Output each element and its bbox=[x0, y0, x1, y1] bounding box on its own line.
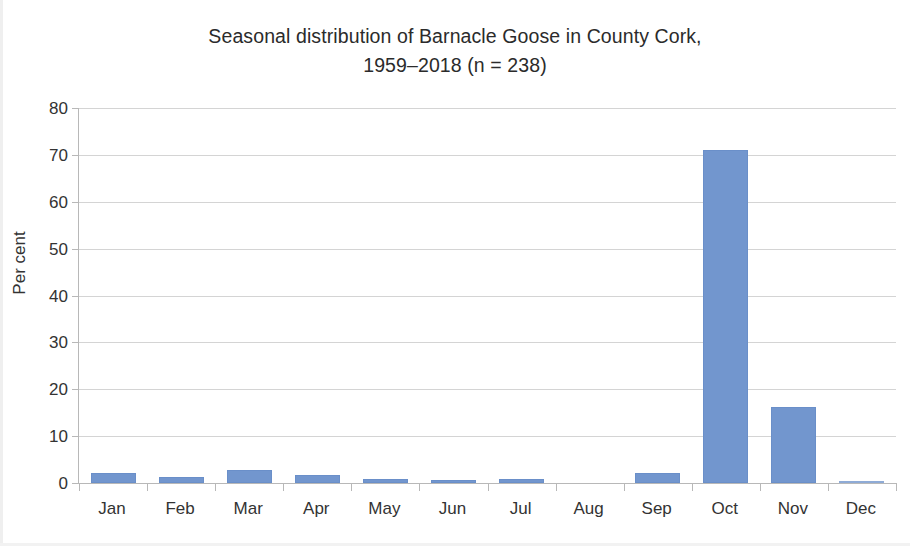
y-tick-mark-70 bbox=[72, 155, 79, 156]
x-axis-tick-labels: JanFebMarAprMayJunJulAugSepOctNovDec bbox=[78, 498, 895, 528]
x-tick-label-jul: Jul bbox=[487, 498, 555, 520]
x-tick-mark-2 bbox=[215, 483, 216, 491]
gridline-60 bbox=[79, 202, 896, 203]
x-tick-mark-5 bbox=[419, 483, 420, 491]
bar-nov bbox=[771, 407, 816, 483]
y-tick-mark-50 bbox=[72, 249, 79, 250]
x-tick-label-apr: Apr bbox=[282, 498, 350, 520]
bar-jun bbox=[431, 480, 476, 483]
bar-jan bbox=[91, 473, 136, 483]
chart-title-line-1: Seasonal distribution of Barnacle Goose … bbox=[0, 22, 910, 51]
y-tick-label-0: 0 bbox=[28, 475, 68, 492]
bar-may bbox=[363, 479, 408, 483]
y-tick-mark-10 bbox=[72, 436, 79, 437]
y-tick-label-30: 30 bbox=[28, 334, 68, 351]
y-tick-label-10: 10 bbox=[28, 428, 68, 445]
gridline-70 bbox=[79, 155, 896, 156]
bar-apr bbox=[295, 475, 340, 483]
y-tick-label-60: 60 bbox=[28, 193, 68, 210]
y-tick-label-40: 40 bbox=[28, 287, 68, 304]
x-tick-mark-10 bbox=[760, 483, 761, 491]
y-axis-tick-labels: 80706050403020100 bbox=[20, 108, 68, 483]
x-tick-label-sep: Sep bbox=[623, 498, 691, 520]
x-tick-label-mar: Mar bbox=[214, 498, 282, 520]
x-tick-mark-3 bbox=[283, 483, 284, 491]
gridline-80 bbox=[79, 108, 896, 109]
x-tick-mark-12 bbox=[896, 483, 897, 491]
x-tick-label-nov: Nov bbox=[759, 498, 827, 520]
x-tick-mark-6 bbox=[488, 483, 489, 491]
x-tick-label-aug: Aug bbox=[555, 498, 623, 520]
x-tick-label-feb: Feb bbox=[146, 498, 214, 520]
gridline-50 bbox=[79, 249, 896, 250]
y-tick-mark-40 bbox=[72, 296, 79, 297]
gridline-30 bbox=[79, 342, 896, 343]
bar-mar bbox=[227, 470, 272, 483]
x-tick-mark-8 bbox=[624, 483, 625, 491]
y-tick-mark-20 bbox=[72, 389, 79, 390]
gridline-40 bbox=[79, 296, 896, 297]
x-tick-mark-1 bbox=[147, 483, 148, 491]
y-tick-mark-80 bbox=[72, 108, 79, 109]
x-tick-mark-4 bbox=[351, 483, 352, 491]
gridline-20 bbox=[79, 389, 896, 390]
x-tick-mark-0 bbox=[79, 483, 80, 491]
chart-title-line-2: 1959–2018 (n = 238) bbox=[0, 51, 910, 80]
x-tick-label-jan: Jan bbox=[78, 498, 146, 520]
x-tick-label-jun: Jun bbox=[418, 498, 486, 520]
x-tick-mark-9 bbox=[692, 483, 693, 491]
bar-jul bbox=[499, 479, 544, 483]
y-tick-label-80: 80 bbox=[28, 100, 68, 117]
y-tick-mark-0 bbox=[72, 483, 79, 484]
y-tick-label-50: 50 bbox=[28, 240, 68, 257]
page-edge-artifact-left bbox=[0, 0, 3, 546]
y-tick-mark-60 bbox=[72, 202, 79, 203]
x-tick-label-may: May bbox=[350, 498, 418, 520]
chart-title: Seasonal distribution of Barnacle Goose … bbox=[0, 22, 910, 80]
bar-oct bbox=[703, 150, 748, 483]
x-tick-label-oct: Oct bbox=[691, 498, 759, 520]
y-tick-label-20: 20 bbox=[28, 381, 68, 398]
bar-feb bbox=[159, 477, 204, 483]
y-tick-mark-30 bbox=[72, 342, 79, 343]
bar-dec bbox=[839, 481, 884, 483]
x-tick-label-dec: Dec bbox=[827, 498, 895, 520]
x-tick-mark-11 bbox=[828, 483, 829, 491]
x-tick-mark-7 bbox=[556, 483, 557, 491]
y-tick-label-70: 70 bbox=[28, 146, 68, 163]
bar-sep bbox=[635, 473, 680, 483]
plot-area bbox=[78, 108, 896, 484]
bar-chart-figure: Seasonal distribution of Barnacle Goose … bbox=[0, 0, 910, 546]
